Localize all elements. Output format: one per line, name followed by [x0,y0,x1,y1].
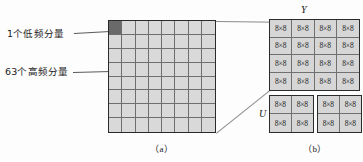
dct-cell-dc [109,21,122,35]
dct-cell [175,35,188,49]
dct-cell [136,118,149,132]
dct-cell [202,35,215,49]
v-macroblock: 8×88×88×88×8 [317,95,362,133]
dct-cell [109,35,122,49]
dct-cell [122,77,135,91]
dct-cell [149,63,162,77]
dct-cell [109,104,122,118]
y-block-cell: 8×8 [337,38,359,56]
dct-cell [189,104,202,118]
dct-cell [149,77,162,91]
y-block-cell: 8×8 [292,20,314,38]
dct-cell [162,35,175,49]
u-block-cell: 8×8 [292,114,314,132]
caption-panel-b: （b） [303,142,327,155]
label-y-component: Y [301,4,307,15]
y-block-cell: 8×8 [270,73,292,91]
y-macroblock: 8×88×88×88×88×88×88×88×88×88×88×88×88×88… [269,19,360,91]
y-block-cell: 8×8 [270,20,292,38]
dct-cell [162,63,175,77]
dct-cell [189,90,202,104]
dct-cell [109,118,122,132]
y-block-cell: 8×8 [292,55,314,73]
dct-cell [189,21,202,35]
dct-cell [149,35,162,49]
u-block-cell: 8×8 [270,114,292,132]
leader-line-dc [74,31,110,34]
dct-cell [202,104,215,118]
dct-coefficient-grid [108,20,216,133]
dct-cell [162,77,175,91]
dct-cell [109,90,122,104]
dct-cell [149,90,162,104]
v-block-cell: 8×8 [318,96,340,114]
dct-cell [109,77,122,91]
dct-cell [122,49,135,63]
dct-cell [109,49,122,63]
v-block-cell: 8×8 [340,96,362,114]
y-block-cell: 8×8 [270,55,292,73]
dct-cell [189,118,202,132]
leader-line-ac [73,71,111,73]
y-block-cell: 8×8 [337,20,359,38]
dct-cell [162,90,175,104]
dct-cell [175,90,188,104]
annotation-ac-component: 63个高频分量 [5,64,69,78]
dct-cell [149,49,162,63]
dct-cell [136,21,149,35]
dct-cell [162,21,175,35]
y-block-cell: 8×8 [292,73,314,91]
y-block-cell: 8×8 [315,38,337,56]
dct-cell [202,21,215,35]
dct-cell [136,49,149,63]
dct-cell [175,21,188,35]
dct-cell [175,77,188,91]
dct-cell [202,49,215,63]
connector-line-diagonal [216,85,277,134]
dct-cell [162,118,175,132]
caption-panel-a: （a） [150,142,173,155]
dct-cell [162,49,175,63]
y-block-cell: 8×8 [292,38,314,56]
dct-cell [202,90,215,104]
dct-cell [202,63,215,77]
dct-cell [189,35,202,49]
u-macroblock: 8×88×88×88×8 [269,95,314,133]
dct-cell [136,104,149,118]
dct-cell [109,63,122,77]
y-block-cell: 8×8 [315,73,337,91]
dct-cell [136,63,149,77]
y-block-cell: 8×8 [337,55,359,73]
u-block-cell: 8×8 [270,96,292,114]
dct-cell [136,90,149,104]
dct-cell [122,104,135,118]
dct-cell [149,118,162,132]
dct-cell [149,21,162,35]
dct-cell [136,77,149,91]
dct-cell [189,63,202,77]
dct-cell [122,63,135,77]
v-block-cell: 8×8 [340,114,362,132]
v-block-cell: 8×8 [318,114,340,132]
dct-cell [136,35,149,49]
dct-cell [189,77,202,91]
figure-container: 1个低频分量 63个高频分量 （a） Y 8×88×88×88×88×88×88… [0,0,363,162]
dct-cell [122,90,135,104]
dct-cell [122,35,135,49]
y-block-cell: 8×8 [315,55,337,73]
dct-cell [175,49,188,63]
dct-cell [122,21,135,35]
y-block-cell: 8×8 [337,73,359,91]
label-u-component: U [259,108,266,119]
dct-cell [175,118,188,132]
dct-cell [175,63,188,77]
y-block-cell: 8×8 [315,20,337,38]
u-block-cell: 8×8 [292,96,314,114]
dct-cell [122,118,135,132]
dct-cell [149,104,162,118]
dct-cell [162,104,175,118]
dct-cell [175,104,188,118]
dct-cell [202,118,215,132]
dct-cell [202,77,215,91]
y-block-cell: 8×8 [270,38,292,56]
